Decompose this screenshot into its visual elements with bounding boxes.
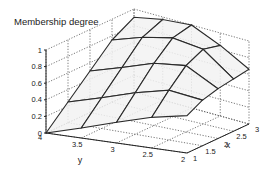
x-tick-label: 1.5 xyxy=(205,147,215,156)
y-tick-label: 3.5 xyxy=(72,140,82,149)
x-tick-label: 2.5 xyxy=(236,132,246,141)
z-tick-label: 0.6 xyxy=(32,79,42,88)
y-tick-label: 2 xyxy=(181,155,185,164)
x-tick-label: 1 xyxy=(193,154,197,163)
y-axis xyxy=(46,133,187,153)
z-tick-label: 0.2 xyxy=(32,112,42,121)
z-tick-label: 1 xyxy=(38,46,42,55)
z-tick-label: 0.8 xyxy=(32,62,42,71)
z-tick-label: 0.4 xyxy=(32,95,42,104)
y-tick-label: 4 xyxy=(38,133,42,142)
y-axis-label: y xyxy=(78,155,83,165)
y-tick-label: 2.5 xyxy=(143,150,153,159)
surface-plot: 00.20.40.60.8143.532.5211.522.53yx xyxy=(0,0,270,182)
x-tick-label: 3 xyxy=(255,125,259,134)
y-tick-label: 3 xyxy=(110,145,114,154)
x-axis-label: x xyxy=(226,140,231,150)
floor-gridline xyxy=(152,116,221,148)
